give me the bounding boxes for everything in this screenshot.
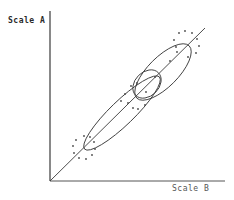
upper-ellipse (126, 35, 200, 109)
scale-comparison-diagram (0, 0, 234, 200)
y-axis-label: Scale A (8, 16, 45, 25)
x-axis-label: Scale B (172, 184, 209, 193)
diagonal-line (50, 28, 205, 181)
long-lower-ellipse (76, 68, 167, 158)
small-middle-ellipse (127, 64, 167, 104)
